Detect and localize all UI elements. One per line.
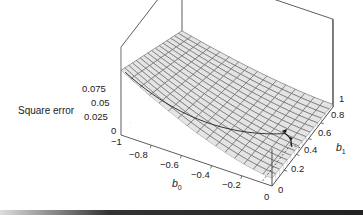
z-tick-0.075: 0.075 bbox=[82, 84, 106, 94]
b1-tick-0: 0 bbox=[278, 185, 283, 195]
b0-tick-neg0.6: −0.6 bbox=[160, 160, 179, 170]
z-axis-title: Square error bbox=[18, 106, 74, 116]
surface-plot: Square error 0.075 0.05 0.025 0 −1 −0.8 … bbox=[0, 0, 363, 215]
bottom-divider-bar bbox=[0, 210, 363, 215]
b0-tick-neg0.4: −0.4 bbox=[191, 170, 210, 180]
b1-tick-0.8: 0.8 bbox=[331, 110, 344, 120]
b1-tick-0.2: 0.2 bbox=[291, 164, 304, 174]
b1-axis-title: b1 bbox=[336, 142, 346, 155]
b0-axis-title: b0 bbox=[172, 178, 182, 191]
z-tick-0.025: 0.025 bbox=[84, 112, 108, 122]
b0-tick-0: 0 bbox=[264, 192, 269, 202]
b0-tick-neg0.2: −0.2 bbox=[222, 180, 241, 190]
b1-tick-1: 1 bbox=[339, 94, 344, 104]
b0-tick-neg0.8: −0.8 bbox=[129, 150, 148, 160]
z-tick-0: 0 bbox=[111, 126, 116, 136]
b1-tick-0.4: 0.4 bbox=[304, 145, 317, 155]
b1-subscript: 1 bbox=[342, 148, 346, 155]
b1-tick-0.6: 0.6 bbox=[318, 128, 331, 138]
b0-tick-neg1: −1 bbox=[111, 137, 122, 147]
z-tick-0.05: 0.05 bbox=[91, 98, 110, 108]
b0-subscript: 0 bbox=[178, 184, 182, 191]
